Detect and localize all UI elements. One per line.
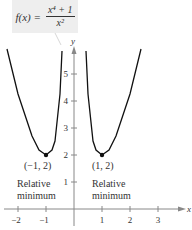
y-tick-label: 1 [64, 177, 69, 187]
curve-left-branch [7, 49, 62, 155]
curve-right-branch [86, 49, 141, 155]
y-axis-label: y [70, 36, 75, 46]
right-note-line2: minimum [92, 190, 131, 201]
x-tick-label: 2 [128, 215, 133, 225]
right-note-line1: Relative [92, 178, 126, 189]
y-tick-label: 4 [64, 96, 69, 106]
x-tick-label: 1 [100, 215, 105, 225]
left-point-label: (−1, 2) [24, 160, 51, 172]
x-axis-arrow-icon [178, 207, 186, 212]
x-tick-label: −2 [11, 215, 21, 225]
y-tick-label: 3 [64, 123, 69, 133]
left-note-line1: Relative [17, 178, 51, 189]
y-tick-labels: 1 2 3 4 5 [64, 69, 69, 187]
min-point-left [44, 153, 48, 157]
x-axis-label: x [186, 204, 191, 214]
graph: x y −2 −1 1 2 3 1 2 3 4 5 (−1, 2) [0, 0, 192, 230]
y-tick-label: 2 [64, 150, 69, 160]
y-tick-label: 5 [64, 69, 69, 79]
left-note-line2: minimum [17, 190, 56, 201]
min-point-right [100, 153, 104, 157]
right-point-label: (1, 2) [92, 160, 114, 172]
x-tick-labels: −2 −1 1 2 3 [11, 215, 161, 225]
x-tick-label: 3 [156, 215, 161, 225]
formula-pointer [55, 33, 61, 45]
x-tick-label: −1 [39, 215, 49, 225]
y-axis-arrow-icon [72, 46, 77, 54]
